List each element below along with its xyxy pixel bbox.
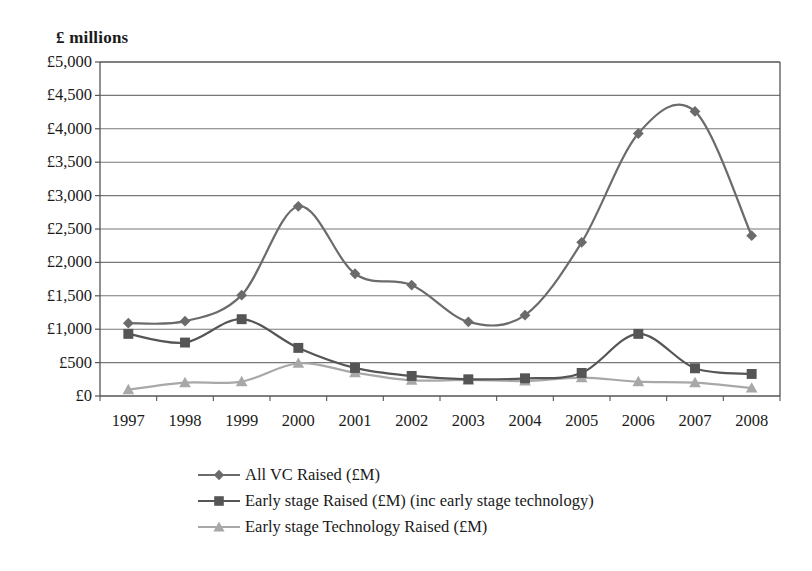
- series-0: [123, 105, 757, 329]
- x-axis-ticks: [100, 396, 780, 401]
- data-point-marker-square: [577, 368, 587, 378]
- data-point-marker-square: [520, 373, 530, 383]
- legend-key-swatch: [196, 466, 242, 484]
- data-point-marker-square: [407, 371, 417, 381]
- legend-item[interactable]: Early stage Raised (£M) (inc early stage…: [196, 488, 666, 514]
- data-point-marker-diamond: [576, 237, 587, 248]
- series-line: [128, 105, 751, 326]
- data-point-marker-square: [123, 329, 133, 339]
- data-point-marker-square: [237, 314, 247, 324]
- legend-marker-triangle-icon: [196, 518, 242, 536]
- legend-label: Early stage Raised (£M) (inc early stage…: [245, 493, 594, 510]
- data-point-marker-diamond: [406, 280, 417, 291]
- chart-container: £ millions £5,000£4,500£4,000£3,500£3,00…: [0, 0, 812, 571]
- data-point-marker-square: [350, 363, 360, 373]
- data-point-marker-diamond: [463, 316, 474, 327]
- data-point-marker-square: [690, 363, 700, 373]
- legend-marker-square-icon: [196, 492, 242, 510]
- data-point-marker-square: [633, 329, 643, 339]
- legend-marker-diamond-icon: [196, 466, 242, 484]
- data-point-marker-square: [293, 343, 303, 353]
- data-point-marker-diamond: [214, 470, 224, 480]
- data-point-marker-square: [214, 496, 224, 506]
- chart-legend: All VC Raised (£M)Early stage Raised (£M…: [196, 462, 666, 540]
- gridlines: [100, 95, 780, 362]
- data-point-marker-square: [747, 369, 757, 379]
- data-point-marker-diamond: [293, 201, 304, 212]
- series-line: [128, 319, 751, 379]
- y-axis-ticks: [95, 62, 100, 396]
- series-1: [123, 314, 756, 384]
- data-point-marker-diamond: [180, 316, 191, 327]
- legend-label: Early stage Technology Raised (£M): [245, 519, 487, 536]
- data-point-marker-square: [463, 374, 473, 384]
- legend-item[interactable]: Early stage Technology Raised (£M): [196, 514, 666, 540]
- data-point-marker-diamond: [123, 318, 134, 329]
- legend-label: All VC Raised (£M): [245, 467, 380, 484]
- data-point-marker-diamond: [746, 230, 757, 241]
- legend-item[interactable]: All VC Raised (£M): [196, 462, 666, 488]
- data-point-marker-square: [180, 338, 190, 348]
- legend-key-swatch: [196, 518, 242, 536]
- legend-key-swatch: [196, 492, 242, 510]
- series-line: [128, 363, 751, 390]
